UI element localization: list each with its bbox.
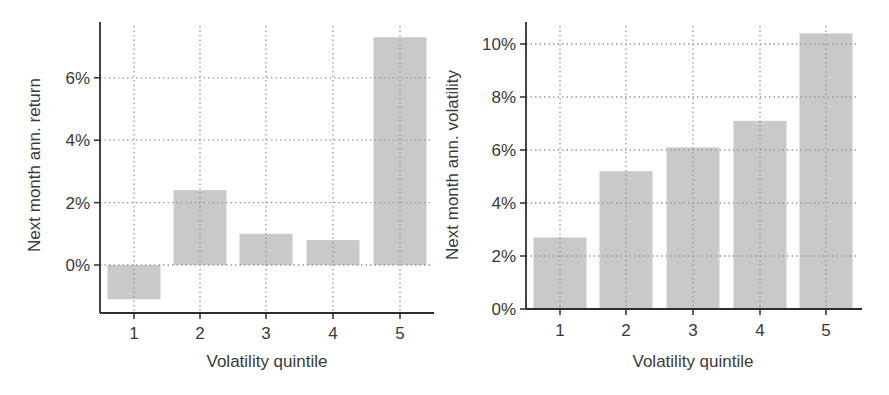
x-tick-label: 5 [821,321,830,340]
x-tick-label: 4 [755,321,764,340]
y-tick-label: 10% [482,35,516,54]
x-tick-label: 2 [195,324,204,343]
bar-1 [534,237,587,309]
x-tick-label: 3 [261,324,270,343]
y-tick-label: 8% [491,88,516,107]
y-tick-label: 0% [491,300,516,319]
bar-2 [174,190,227,265]
x-tick-label: 1 [129,324,138,343]
x-tick-label: 5 [395,324,404,343]
y-tick-label: 4% [65,131,90,150]
x-tick-label: 2 [621,321,630,340]
x-axis-title: Volatility quintile [207,352,328,371]
y-axis-title: Next month ann. volatility [443,70,462,260]
volatility-chart: 0%2%4%6%8%10%12345Volatility quintileNex… [443,22,862,371]
bar-3 [667,147,720,309]
charts-canvas: 0%2%4%6%12345Volatility quintileNext mon… [0,0,889,395]
bar-4 [734,121,787,309]
y-tick-label: 0% [65,256,90,275]
x-axis-title: Volatility quintile [633,352,754,371]
y-tick-label: 2% [491,247,516,266]
x-tick-label: 1 [555,321,564,340]
return-chart: 0%2%4%6%12345Volatility quintileNext mon… [25,22,434,371]
y-tick-label: 6% [491,141,516,160]
x-tick-label: 4 [328,324,337,343]
y-tick-label: 6% [65,69,90,88]
y-tick-label: 2% [65,194,90,213]
y-axis-title: Next month ann. return [25,78,44,252]
x-tick-label: 3 [688,321,697,340]
y-tick-label: 4% [491,194,516,213]
